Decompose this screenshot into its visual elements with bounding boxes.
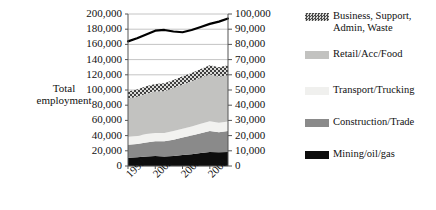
right-axis-tick-label: 40,000 xyxy=(235,99,295,110)
right-axis-tick-label: 20,000 xyxy=(235,130,295,141)
total-employment-line-path xyxy=(128,19,228,42)
legend-item[interactable]: Mining/oil/gas xyxy=(305,148,436,178)
left-axis-tick-label: 20,000 xyxy=(62,145,122,156)
legend-item[interactable]: Business, Support, Admin, Waste xyxy=(305,10,436,40)
right-axis-tick-label: 10,000 xyxy=(235,145,295,156)
left-axis-tick-label: 180,000 xyxy=(62,23,122,34)
legend-swatch-icon xyxy=(305,119,329,127)
right-axis-tick-label: 70,000 xyxy=(235,54,295,65)
left-axis-tick-label: 40,000 xyxy=(62,130,122,141)
legend-label: Transport/Trucking xyxy=(333,84,436,96)
right-axis-tick-label: 30,000 xyxy=(235,114,295,125)
legend-item[interactable]: Construction/Trade xyxy=(305,116,436,146)
employment-stacked-area-chart: Total employment 020,00040,00060,00080,0… xyxy=(0,0,436,210)
legend-swatch-icon xyxy=(305,13,329,21)
left-axis-tick-label: 140,000 xyxy=(62,54,122,65)
right-axis-tick-label: 90,000 xyxy=(235,23,295,34)
right-axis-tick-label: 100,000 xyxy=(235,8,295,19)
right-axis-tick-label: 0 xyxy=(235,160,295,171)
left-axis-tick-label: 100,000 xyxy=(62,84,122,95)
stacked-areas xyxy=(128,65,228,166)
right-axis-tick-label: 80,000 xyxy=(235,38,295,49)
left-axis-tick-label: 80,000 xyxy=(62,99,122,110)
legend-swatch-icon xyxy=(305,87,329,95)
legend-item[interactable]: Transport/Trucking xyxy=(305,84,436,114)
left-axis-tick-label: 160,000 xyxy=(62,38,122,49)
left-axis-tick-label: 60,000 xyxy=(62,114,122,125)
left-axis-tick-label: 200,000 xyxy=(62,8,122,19)
legend-label: Mining/oil/gas xyxy=(333,148,436,160)
legend-label: Construction/Trade xyxy=(333,116,436,128)
total-employment-line xyxy=(128,19,228,42)
right-axis-tick-label: 50,000 xyxy=(235,84,295,95)
legend-swatch-icon xyxy=(305,151,329,159)
right-axis-tick-label: 60,000 xyxy=(235,69,295,80)
legend-label: Retail/Acc/Food xyxy=(333,48,436,60)
legend-label: Business, Support, Admin, Waste xyxy=(333,10,436,33)
legend-swatch-icon xyxy=(305,51,329,59)
left-axis-tick-label: 120,000 xyxy=(62,69,122,80)
legend-item[interactable]: Retail/Acc/Food xyxy=(305,48,436,78)
left-axis-tick-label: 0 xyxy=(62,160,122,171)
